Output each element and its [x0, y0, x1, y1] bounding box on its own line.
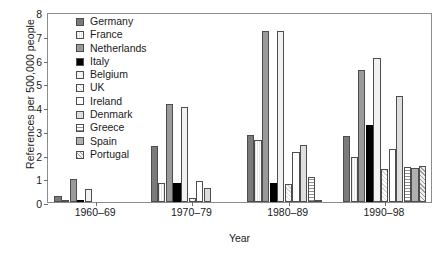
bar-belgium-1990-98	[373, 58, 380, 202]
bar-france-1990-98	[351, 157, 358, 202]
y-axis-tick-mark	[44, 62, 48, 63]
legend-swatch-greece-icon	[76, 124, 84, 132]
bar-uk-1980-89	[285, 184, 292, 202]
bar-denmark-1980-89	[300, 145, 307, 202]
bar-netherlands-1990-98	[358, 70, 365, 202]
bar-uk-1990-98	[381, 169, 388, 202]
legend-label: Germany	[90, 15, 133, 28]
bar-france-1980-89	[254, 140, 261, 202]
legend-item-germany: Germany	[76, 15, 147, 28]
legend-swatch-netherlands-icon	[76, 44, 84, 52]
bar-ireland-1980-89	[292, 152, 299, 202]
bar-france-1970-79	[158, 183, 165, 202]
bar-spain-1990-98	[411, 168, 418, 202]
legend-item-france: France	[76, 28, 147, 41]
legend-swatch-france-icon	[76, 31, 84, 39]
legend-label: UK	[90, 81, 105, 94]
bar-germany-1990-98	[343, 136, 350, 202]
bar-italy-1960-69	[77, 200, 84, 202]
bar-greece-1990-98	[404, 167, 411, 202]
bar-denmark-1990-98	[396, 96, 403, 202]
bar-netherlands-1960-69	[70, 179, 77, 202]
bar-france-1960-69	[62, 200, 69, 202]
legend-label: Denmark	[90, 108, 133, 121]
bar-germany-1960-69	[54, 196, 61, 202]
legend-label: France	[90, 28, 123, 41]
bar-ireland-1970-79	[196, 181, 203, 202]
y-axis-tick-mark	[44, 38, 48, 39]
legend-swatch-portugal-icon	[76, 151, 84, 159]
legend-label: Portugal	[90, 148, 129, 161]
legend-item-ireland: Ireland	[76, 95, 147, 108]
legend-item-uk: UK	[76, 81, 147, 94]
y-axis-tick-mark	[44, 109, 48, 110]
legend-item-spain: Spain	[76, 135, 147, 148]
x-axis-tick-label-1990-98: 1990–98	[363, 206, 404, 218]
legend-item-portugal: Portugal	[76, 148, 147, 161]
bar-netherlands-1980-89	[262, 31, 269, 202]
legend-item-italy: Italy	[76, 55, 147, 68]
y-axis-title: References per 500,000 people	[24, 0, 36, 194]
bar-spain-1980-89	[315, 200, 322, 202]
bar-italy-1970-79	[173, 183, 180, 202]
bar-netherlands-1970-79	[166, 104, 173, 202]
bar-greece-1980-89	[308, 177, 315, 202]
legend-swatch-belgium-icon	[76, 71, 84, 79]
legend-label: Greece	[90, 121, 124, 134]
x-axis-tick-label-1970-79: 1970–79	[171, 206, 212, 218]
bar-belgium-1970-79	[181, 107, 188, 202]
bar-germany-1980-89	[247, 135, 254, 202]
y-axis-tick-mark	[44, 204, 48, 205]
x-axis-tick-label-1980-89: 1980–89	[267, 206, 308, 218]
legend-label: Spain	[90, 135, 117, 148]
chart-legend: GermanyFranceNetherlandsItalyBelgiumUKIr…	[76, 15, 147, 161]
bar-belgium-1960-69	[85, 189, 92, 202]
legend-item-greece: Greece	[76, 121, 147, 134]
bar-belgium-1980-89	[277, 31, 284, 202]
legend-swatch-spain-icon	[76, 137, 84, 145]
y-axis-tick-mark	[44, 157, 48, 158]
legend-item-netherlands: Netherlands	[76, 42, 147, 55]
legend-swatch-italy-icon	[76, 58, 84, 66]
legend-swatch-denmark-icon	[76, 111, 84, 119]
legend-item-denmark: Denmark	[76, 108, 147, 121]
y-axis-tick-label: 8	[36, 8, 48, 20]
y-axis-tick-mark	[44, 180, 48, 181]
bar-italy-1980-89	[270, 183, 277, 202]
bar-chart-figure: References per 500,000 people 012345678 …	[0, 0, 447, 265]
legend-label: Italy	[90, 55, 109, 68]
legend-label: Ireland	[90, 95, 122, 108]
y-axis-tick-mark	[44, 133, 48, 134]
bar-germany-1970-79	[151, 146, 158, 202]
x-axis-title: Year	[47, 232, 432, 244]
bar-ireland-1990-98	[389, 149, 396, 202]
bar-denmark-1970-79	[204, 188, 211, 202]
legend-label: Belgium	[90, 68, 128, 81]
x-axis-tick-label-1960-69: 1960–69	[75, 206, 116, 218]
legend-item-belgium: Belgium	[76, 68, 147, 81]
legend-swatch-ireland-icon	[76, 97, 84, 105]
legend-swatch-germany-icon	[76, 18, 84, 26]
legend-label: Netherlands	[90, 42, 147, 55]
legend-swatch-uk-icon	[76, 84, 84, 92]
bar-portugal-1990-98	[419, 166, 426, 202]
bar-italy-1990-98	[366, 125, 373, 202]
y-axis-tick-mark	[44, 85, 48, 86]
